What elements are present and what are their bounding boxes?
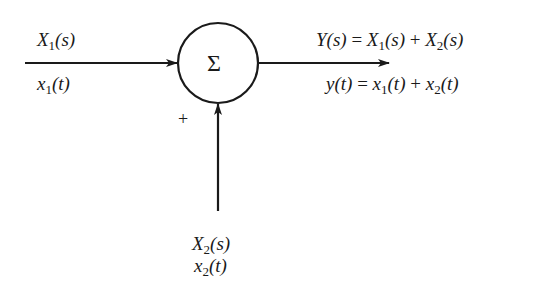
sigma-symbol: Σ [207, 51, 221, 75]
output-time-equation: y(t) = x1(t) + x2(t) [326, 74, 459, 96]
output-laplace-equation: Y(s) = X1(s) + X2(s) [316, 30, 463, 52]
block-diagram-canvas [0, 0, 549, 294]
input2-plus-sign: + [178, 110, 188, 128]
input2-time-label: x2(t) [194, 256, 227, 278]
input2-laplace-label: X2(s) [192, 234, 230, 256]
input1-time-label: x1(t) [37, 74, 70, 96]
input1-laplace-label: X1(s) [37, 30, 75, 52]
